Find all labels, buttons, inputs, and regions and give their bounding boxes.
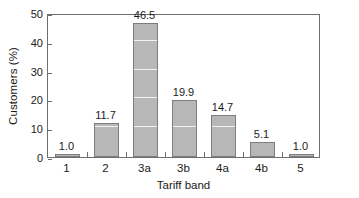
bar: [211, 115, 236, 157]
y-axis-tick-label: 10: [22, 124, 43, 135]
x-axis-tick-mark: [243, 152, 244, 157]
y-axis-tick-labels: 01020304050: [22, 14, 43, 158]
bar: [250, 142, 275, 157]
y-axis-tick-label: 50: [22, 9, 43, 20]
bar: [94, 123, 119, 157]
bar: [133, 23, 158, 157]
bar-chart-figure: Customers (%) 01020304050 Tariff band 1.…: [0, 0, 359, 198]
bar-value-label: 14.7: [198, 102, 248, 113]
bar: [289, 154, 314, 157]
bar-value-label: 5.1: [237, 129, 287, 140]
bar-value-label: 19.9: [159, 87, 209, 98]
bar-value-label: 1.0: [42, 141, 92, 152]
x-axis-tick-mark: [282, 152, 283, 157]
bar-gridline: [134, 40, 157, 41]
x-axis-tick-mark: [204, 152, 205, 157]
bar-gridline: [134, 126, 157, 127]
y-axis-tick-mark: [48, 15, 52, 16]
x-axis-tick-mark: [165, 152, 166, 157]
bar-value-label: 1.0: [276, 141, 326, 152]
bar-gridline: [134, 97, 157, 98]
bar-gridline: [212, 126, 235, 127]
y-axis-tick-mark: [48, 44, 52, 45]
y-axis-tick-label: 20: [22, 95, 43, 106]
y-axis-tick-mark: [48, 159, 52, 160]
bar-value-label: 46.5: [120, 10, 170, 21]
x-axis-tick-label: 5: [276, 162, 326, 174]
y-axis-title: Customers (%): [4, 14, 22, 158]
bar-value-label: 11.7: [81, 110, 131, 121]
y-axis-tick-mark: [48, 101, 52, 102]
y-axis-tick-label: 40: [22, 38, 43, 49]
y-axis-tick-label: 30: [22, 67, 43, 78]
bar: [172, 100, 197, 157]
bar-gridline: [134, 69, 157, 70]
bar-gridline: [173, 126, 196, 127]
x-axis-tick-mark: [87, 152, 88, 157]
x-axis-tick-mark: [126, 152, 127, 157]
y-axis-tick-mark: [48, 73, 52, 74]
x-axis-title: Tariff band: [47, 179, 320, 192]
y-axis-tick-mark: [48, 130, 52, 131]
y-axis-tick-label: 0: [22, 153, 43, 164]
bar: [55, 154, 80, 157]
bar-gridline: [95, 126, 118, 127]
